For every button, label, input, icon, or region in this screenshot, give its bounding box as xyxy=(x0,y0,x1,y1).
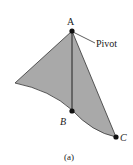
caption: (a) xyxy=(64,152,74,162)
label-pivot: Pivot xyxy=(96,38,117,49)
point-b xyxy=(69,108,74,113)
label-a: A xyxy=(67,16,75,27)
point-c xyxy=(113,134,118,139)
pendulum-diagram: A Pivot B C (a) xyxy=(0,0,133,165)
label-b: B xyxy=(60,116,66,127)
label-c: C xyxy=(120,132,127,143)
point-a xyxy=(69,28,74,33)
